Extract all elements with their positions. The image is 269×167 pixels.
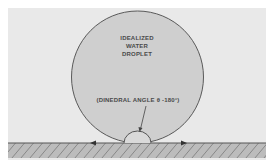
droplet-label: IDEALIZED WATER DROPLET	[107, 34, 167, 58]
droplet-label-line: WATER	[107, 42, 167, 50]
ground-surface	[8, 143, 266, 158]
droplet-label-line: DROPLET	[107, 50, 167, 58]
droplet-diagram	[0, 0, 269, 167]
water-droplet	[72, 11, 204, 143]
droplet-label-line: IDEALIZED	[107, 34, 167, 42]
dihedral-angle-label: (DINEDRAL ANGLE θ -180°)	[70, 96, 206, 104]
